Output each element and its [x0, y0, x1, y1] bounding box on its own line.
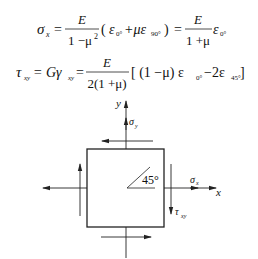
- svg-text:xy: xy: [23, 74, 31, 82]
- svg-text:xy: xy: [180, 213, 187, 219]
- angle-label: 45°: [142, 173, 159, 187]
- svg-text:y: y: [134, 123, 138, 129]
- svg-text:xy: xy: [67, 74, 75, 82]
- svg-text:): ): [164, 22, 169, 38]
- svg-text:0°: 0°: [220, 30, 227, 38]
- svg-text:2: 2: [94, 32, 98, 41]
- svg-text:ε: ε: [213, 22, 219, 37]
- tau-xy-label: τ: [175, 206, 179, 217]
- svg-text:=: =: [54, 22, 62, 37]
- svg-text:[ (1 −μ) ε: [ (1 −μ) ε: [131, 65, 184, 81]
- svg-text:90°: 90°: [151, 30, 161, 38]
- svg-text:σ: σ: [37, 21, 45, 37]
- x-axis-label: x: [215, 186, 221, 198]
- svg-text:0°: 0°: [116, 30, 123, 38]
- equation-sigma-x: σ x = E 1 −μ 2 ( ε 0° +με 90° ) = E 1 +μ…: [37, 12, 227, 48]
- svg-text:x: x: [45, 30, 50, 39]
- svg-text:]: ]: [240, 65, 245, 80]
- svg-text:E: E: [102, 55, 111, 70]
- svg-text:1 +μ: 1 +μ: [186, 33, 210, 48]
- svg-text:1 −μ: 1 −μ: [68, 33, 92, 48]
- svg-text:0°: 0°: [196, 74, 203, 82]
- svg-text:=: =: [76, 65, 84, 80]
- svg-text:ε: ε: [109, 22, 115, 37]
- svg-text:E: E: [193, 12, 202, 27]
- svg-text:= Gγ: = Gγ: [33, 65, 62, 80]
- svg-text:(: (: [101, 22, 106, 38]
- svg-text:E: E: [77, 12, 86, 27]
- y-axis-label: y: [115, 97, 121, 109]
- stress-equations-and-element-diagram: σ x = E 1 −μ 2 ( ε 0° +με 90° ) = E 1 +μ…: [0, 0, 258, 259]
- svg-text:+με: +με: [124, 22, 146, 37]
- diagram-labels: y σ y σ x x τ xy 45°: [115, 97, 221, 219]
- svg-text:τ: τ: [16, 64, 22, 80]
- equation-tau-xy: τ xy = Gγ xy = E 2(1 +μ) [ (1 −μ) ε 0° −…: [16, 55, 245, 91]
- svg-text:−2ε: −2ε: [204, 65, 225, 80]
- svg-text:=: =: [174, 22, 182, 37]
- svg-text:2(1 +μ): 2(1 +μ): [87, 76, 126, 91]
- svg-text:x: x: [195, 180, 199, 186]
